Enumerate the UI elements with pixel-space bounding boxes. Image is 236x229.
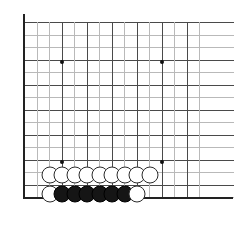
star-point-upper-left	[60, 60, 64, 64]
go-board-figure	[0, 0, 236, 229]
grid-line-vertical-11	[162, 22, 163, 197]
grid-line-horizontal-3	[24, 60, 234, 61]
board-edge-left	[23, 14, 25, 199]
grid-line-vertical-1	[37, 22, 38, 197]
grid-line-horizontal-6	[24, 97, 234, 98]
grid-line-horizontal-0	[24, 22, 234, 23]
grid-line-horizontal-2	[24, 47, 234, 48]
grid-line-horizontal-7	[24, 110, 234, 111]
go-board[interactable]	[0, 0, 236, 229]
grid-line-vertical-13	[187, 22, 188, 197]
grid-line-vertical-12	[174, 22, 175, 197]
star-point-upper-right	[160, 60, 164, 64]
grid-line-horizontal-8	[24, 122, 234, 123]
stone-white-r13-c9[interactable]	[129, 186, 146, 203]
grid-line-horizontal-9	[24, 135, 234, 136]
star-point-lower-left	[60, 160, 64, 164]
grid-line-horizontal-10	[24, 147, 234, 148]
grid-line-horizontal-11	[24, 160, 234, 161]
grid-line-horizontal-5	[24, 85, 234, 86]
grid-line-vertical-14	[199, 22, 200, 197]
stone-white-r12-c10[interactable]	[142, 167, 159, 184]
grid-line-horizontal-4	[24, 72, 234, 73]
grid-line-horizontal-1	[24, 35, 234, 36]
star-point-lower-right	[160, 160, 164, 164]
